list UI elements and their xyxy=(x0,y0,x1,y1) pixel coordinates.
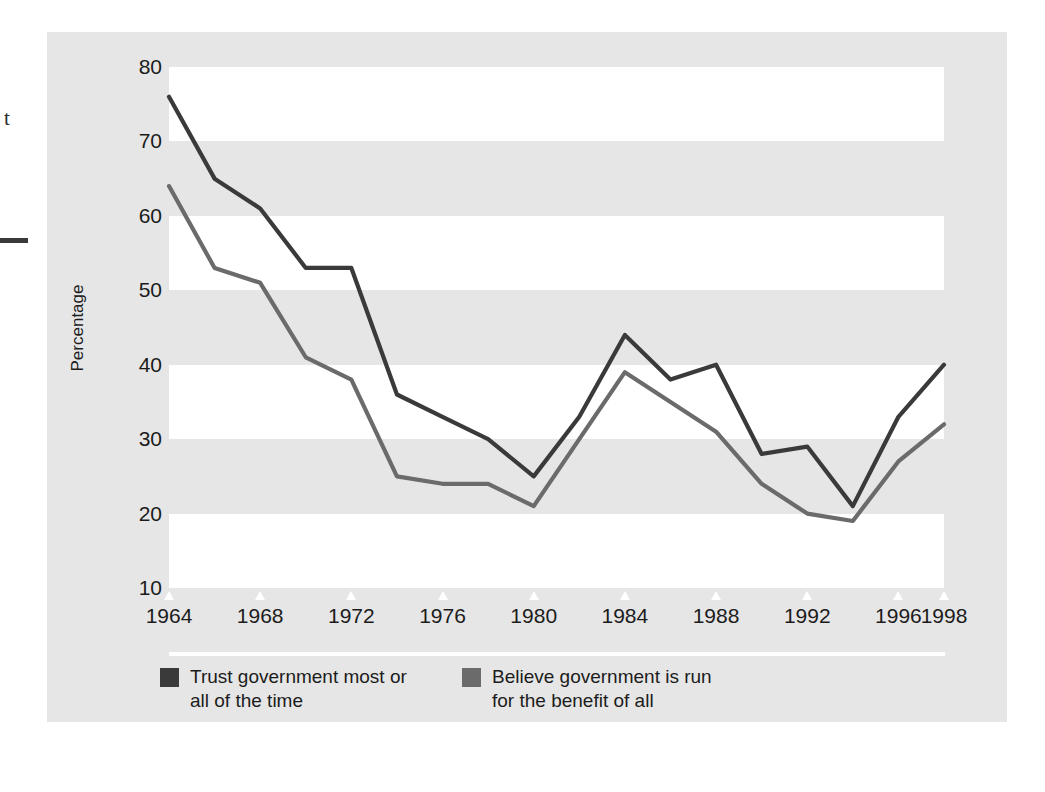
x-tick-marker xyxy=(346,591,356,600)
plot-area xyxy=(169,67,944,588)
margin-rule xyxy=(0,238,28,243)
x-tick-marker xyxy=(802,591,812,600)
chart-legend: Trust government most or all of the time… xyxy=(160,665,860,717)
y-axis-title: Percentage xyxy=(68,285,88,372)
x-tick-marker xyxy=(620,591,630,600)
series-line-trust xyxy=(169,97,944,506)
x-tick-label: 1968 xyxy=(237,604,284,628)
figure-container: t 8070605040302010 Percentage 1964196819… xyxy=(0,0,1045,792)
x-tick-marker xyxy=(711,591,721,600)
y-tick-label: 80 xyxy=(139,55,162,79)
y-tick-label: 30 xyxy=(139,427,162,451)
y-tick-label: 50 xyxy=(139,278,162,302)
x-tick-label: 1980 xyxy=(510,604,557,628)
x-tick-marker xyxy=(438,591,448,600)
y-tick-label: 60 xyxy=(139,204,162,228)
gray-square-swatch xyxy=(462,668,481,687)
legend-divider xyxy=(169,652,945,656)
x-tick-label: 1972 xyxy=(328,604,375,628)
dark-square-swatch xyxy=(160,668,179,687)
x-tick-label: 1964 xyxy=(146,604,193,628)
x-tick-marker xyxy=(164,591,174,600)
x-tick-marker xyxy=(939,591,949,600)
x-tick-marker xyxy=(893,591,903,600)
x-tick-marker xyxy=(529,591,539,600)
x-tick-label: 1984 xyxy=(602,604,649,628)
y-tick-label: 10 xyxy=(139,576,162,600)
data-lines xyxy=(169,67,944,588)
x-tick-marker xyxy=(255,591,265,600)
legend-item-benefit: Believe government is run for the benefi… xyxy=(462,665,712,714)
y-tick-label: 20 xyxy=(139,502,162,526)
x-tick-label: 1998 xyxy=(921,604,968,628)
x-tick-label: 1992 xyxy=(784,604,831,628)
y-tick-label: 40 xyxy=(139,353,162,377)
x-axis-labels: 1964196819721976198019841988199219961998 xyxy=(169,596,944,636)
x-tick-label: 1976 xyxy=(419,604,466,628)
x-tick-label: 1988 xyxy=(693,604,740,628)
x-tick-label: 1996 xyxy=(875,604,922,628)
y-tick-label: 70 xyxy=(139,129,162,153)
legend-label-trust: Trust government most or all of the time xyxy=(190,665,407,714)
legend-label-benefit: Believe government is run for the benefi… xyxy=(492,665,712,714)
y-axis-labels: 8070605040302010 xyxy=(118,67,162,588)
margin-text-fragment: t xyxy=(4,108,10,129)
legend-item-trust: Trust government most or all of the time xyxy=(160,665,407,714)
